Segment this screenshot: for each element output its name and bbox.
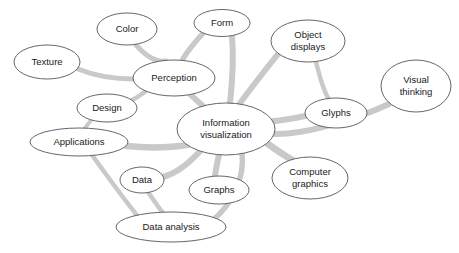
node-label-form: Form — [211, 17, 233, 28]
node-color[interactable]: Color — [97, 13, 157, 45]
edge-texture-perception — [78, 69, 134, 79]
edge-objectdisplays-infovis — [238, 54, 278, 106]
node-label-line: Form — [211, 17, 233, 28]
node-label-line: Applications — [53, 136, 104, 147]
node-label-design: Design — [92, 102, 122, 113]
node-label-applications: Applications — [53, 136, 104, 147]
edge-graphs-infovis — [215, 154, 219, 176]
node-visual-thinking[interactable]: Visualthinking — [381, 60, 451, 112]
node-label-line: Color — [116, 23, 139, 34]
node-data[interactable]: Data — [120, 167, 164, 193]
node-label-line: Design — [92, 102, 122, 113]
node-label-line: Computer — [289, 166, 331, 177]
node-label-perception: Perception — [151, 72, 196, 83]
edge-glyphs-infovis — [273, 116, 305, 121]
node-object-displays[interactable]: Objectdisplays — [271, 20, 345, 62]
node-data-analysis[interactable]: Data analysis — [116, 212, 226, 242]
node-label-color: Color — [116, 23, 139, 34]
node-label-texture: Texture — [31, 56, 62, 67]
node-label-line: visualization — [200, 128, 252, 139]
node-information-visualization[interactable]: Informationvisualization — [177, 103, 275, 155]
node-label-line: Data analysis — [142, 221, 199, 232]
node-label-line: Graphs — [203, 184, 234, 195]
node-texture[interactable]: Texture — [14, 45, 80, 79]
node-perception[interactable]: Perception — [133, 60, 215, 96]
node-label-information-visualization: Informationvisualization — [200, 117, 252, 140]
node-computer-graphics[interactable]: Computergraphics — [272, 157, 348, 199]
edge-form-perception — [182, 31, 205, 61]
node-label-visual-thinking: Visualthinking — [400, 74, 433, 97]
node-label-data: Data — [132, 174, 153, 185]
edge-objectdisplays-glyphs — [316, 62, 329, 99]
node-label-object-displays: Objectdisplays — [291, 29, 326, 52]
node-label-computer-graphics: Computergraphics — [289, 166, 331, 189]
node-label-line: Object — [294, 29, 322, 40]
node-design[interactable]: Design — [77, 94, 137, 122]
edge-color-perception — [136, 45, 166, 61]
edge-data-infovis — [163, 148, 203, 177]
node-label-line: Data — [132, 174, 153, 185]
node-label-line: thinking — [400, 85, 433, 96]
node-graphs[interactable]: Graphs — [189, 176, 249, 204]
node-label-line: Perception — [151, 72, 196, 83]
concept-map-diagram: TextureColorFormObjectdisplaysVisualthin… — [0, 0, 459, 253]
edge-form-infovis — [230, 36, 233, 103]
node-label-line: Texture — [31, 56, 62, 67]
node-glyphs[interactable]: Glyphs — [305, 98, 367, 128]
diagram-canvas: TextureColorFormObjectdisplaysVisualthin… — [0, 0, 459, 253]
node-label-glyphs: Glyphs — [321, 107, 351, 118]
node-form[interactable]: Form — [194, 10, 250, 37]
node-label-data-analysis: Data analysis — [142, 221, 199, 232]
node-label-line: graphics — [292, 177, 328, 188]
node-applications[interactable]: Applications — [30, 128, 128, 156]
node-label-line: Information — [202, 117, 250, 128]
node-label-line: Visual — [403, 74, 429, 85]
node-label-line: Glyphs — [321, 107, 351, 118]
edge-data-dataanalysis — [148, 192, 164, 214]
node-label-graphs: Graphs — [203, 184, 234, 195]
node-label-line: displays — [291, 40, 326, 51]
